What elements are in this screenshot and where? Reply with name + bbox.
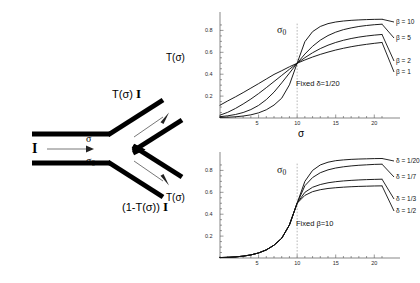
x-tick-label: 20: [371, 260, 377, 266]
bottom-chart-sigma0-marker-label: σ0: [277, 164, 286, 177]
bottom-chart-annotation: Fixed β=10: [296, 219, 333, 228]
legend-item: β = 1: [396, 68, 411, 75]
y-tick-label: 0.2: [205, 233, 213, 239]
legend-leader-0: [382, 158, 394, 161]
legend-item: β = 10: [396, 18, 414, 25]
series-line-1: [220, 164, 382, 257]
x-tick-label: 10: [294, 260, 300, 266]
x-tick-label: 15: [333, 260, 339, 266]
y-tick-label: 0.4: [205, 211, 213, 217]
bottom-chart-ylabel: T(σ): [166, 192, 185, 203]
top-chart-annotation: Fixed δ=1/20: [296, 79, 340, 88]
legend-item: β = 5: [396, 34, 411, 41]
legend-item: β = 2: [396, 57, 411, 64]
legend-item: δ = 1/3: [396, 195, 416, 202]
legend-leader-1: [382, 24, 394, 38]
series-line-2: [220, 34, 382, 115]
upper-branch-inner-wall: [133, 120, 182, 151]
top-chart-ylabel: T(σ): [166, 52, 185, 63]
input-intensity-label: I: [32, 141, 37, 157]
y-tick-label: 0.6: [205, 189, 213, 195]
x-tick-label: 5: [256, 120, 259, 126]
x-tick-label: 5: [256, 260, 259, 266]
upper-output-label: T(σ) I: [112, 86, 141, 102]
legend-item: δ = 1/7: [396, 173, 416, 180]
y-junction-diagram: I σ σ0 T(σ) I (1-T(σ)) I: [0, 0, 200, 283]
legend-leader-1: [382, 164, 394, 177]
legend-item: δ = 1/20: [396, 157, 420, 164]
x-tick-label: 15: [333, 120, 339, 126]
branch-sigma0-label: σ0: [86, 155, 95, 168]
top-chart-xlabel: σ: [298, 128, 304, 139]
top-chart: [196, 8, 416, 138]
legend-leader-0: [382, 19, 394, 22]
y-junction-svg: [0, 0, 200, 283]
y-tick-label: 0.6: [205, 49, 213, 55]
bottom-chart-svg: [196, 148, 416, 278]
y-tick-label: 0.2: [205, 93, 213, 99]
x-tick-label: 10: [294, 120, 300, 126]
input-flow-arrow-head: [86, 146, 94, 153]
bottom-chart: [196, 148, 416, 278]
lower-output-label: (1-T(σ)) I: [122, 199, 168, 215]
x-tick-label: 20: [371, 120, 377, 126]
y-tick-label: 0.8: [205, 167, 213, 173]
lower-branch-outer-wall: [108, 162, 163, 197]
top-chart-svg: [196, 8, 416, 138]
top-chart-sigma0-marker-label: σ0: [277, 24, 286, 37]
y-tick-label: 0.8: [205, 27, 213, 33]
branch-sigma-label: σ: [86, 133, 91, 144]
legend-item: δ = 1/2: [396, 207, 416, 214]
series-line-0: [220, 158, 382, 257]
y-tick-label: 0.4: [205, 71, 213, 77]
upper-branch-outer-wall: [108, 100, 163, 135]
